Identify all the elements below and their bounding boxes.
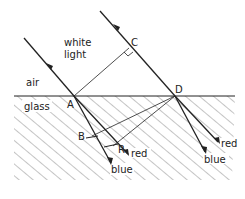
label-light: light [64,49,86,60]
label-d: D [175,84,183,95]
label-c: C [131,37,138,48]
label-blue-right: blue [204,154,226,165]
label-red-left: red [131,148,147,159]
label-r: R [118,144,125,155]
right-angle-mark [124,52,133,56]
arrow-icon [46,63,53,70]
label-blue-left: blue [111,164,133,175]
label-air: air [26,77,40,88]
incident-ray-2 [100,11,175,96]
label-b: B [78,131,85,142]
label-glass: glass [24,101,50,112]
label-red-right: red [221,138,237,149]
label-white: white [64,37,91,48]
label-a: A [67,99,74,110]
dispersion-diagram: white light air glass A C D B R red blue… [0,0,245,199]
